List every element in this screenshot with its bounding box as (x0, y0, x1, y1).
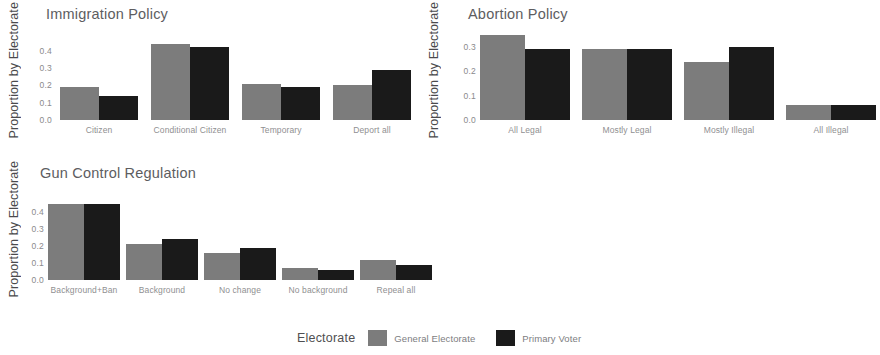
bar-primary-voter (281, 87, 320, 120)
y-axis-tick-label: 0.0 (464, 115, 480, 125)
bar-primary-voter (190, 47, 229, 120)
plot-area-gun-control: 0.00.10.20.30.4Background+BanBackgroundN… (48, 202, 440, 280)
bar-primary-voter (831, 105, 876, 120)
panel-immigration-policy: Proportion by Electorate Immigration Pol… (0, 0, 420, 150)
y-axis-tick-label: 0.1 (464, 91, 480, 101)
bar-general-electorate (204, 253, 240, 280)
bar-primary-voter (318, 270, 354, 280)
bar-primary-voter (525, 49, 570, 120)
y-axis-tick-label: 0.3 (40, 63, 56, 73)
bar-general-electorate (242, 84, 281, 120)
bar-primary-voter (99, 96, 138, 120)
plot-area-immigration: 0.00.10.20.30.4CitizenConditional Citize… (56, 42, 411, 120)
legend: Electorate General Electorate Primary Vo… (297, 330, 581, 346)
x-axis-tick-label: Deport all (353, 125, 390, 135)
y-axis-label-text: Proportion by Electorate (7, 2, 21, 139)
panel-title-immigration: Immigration Policy (46, 6, 168, 22)
x-axis-tick-label: All Legal (508, 125, 542, 135)
bar-group-container: Background+BanBackgroundNo changeNo back… (48, 202, 440, 280)
y-axis-tick-label: 0.4 (40, 46, 56, 56)
bar-group-container: CitizenConditional CitizenTemporaryDepor… (56, 42, 411, 120)
bar-general-electorate (126, 244, 162, 280)
y-axis-tick-label: 0.2 (40, 80, 56, 90)
x-axis-tick-label: Background (139, 285, 185, 295)
bar-general-electorate (151, 44, 190, 120)
gray-swatch-icon (368, 330, 387, 346)
legend-item-label: General Electorate (394, 333, 475, 344)
bar-general-electorate (282, 268, 318, 280)
bar-general-electorate (786, 105, 831, 120)
panel-title-abortion: Abortion Policy (468, 6, 568, 22)
x-axis-tick-label: Temporary (260, 125, 301, 135)
plot-area-abortion: 0.00.10.20.3All LegalMostly LegalMostly … (480, 30, 880, 120)
x-axis-tick-label: Conditional Citizen (154, 125, 227, 135)
bar-general-electorate (333, 85, 372, 120)
y-axis-tick-label: 0.0 (32, 275, 48, 285)
legend-item-label: Primary Voter (522, 333, 581, 344)
y-axis-tick-label: 0.0 (40, 115, 56, 125)
bar-primary-voter (627, 49, 672, 120)
legend-title: Electorate (297, 331, 355, 345)
x-axis-tick-label: Repeal all (377, 285, 416, 295)
y-axis-tick-label: 0.1 (40, 98, 56, 108)
panel-title-gun-control: Gun Control Regulation (40, 165, 196, 181)
bar-group-container: All LegalMostly LegalMostly IllegalAll I… (480, 30, 880, 120)
bar-general-electorate (684, 62, 729, 120)
bar-general-electorate (48, 204, 84, 280)
y-axis-label-text: Proportion by Electorate (7, 161, 21, 298)
y-axis-label-abortion: Proportion by Electorate (422, 0, 446, 140)
bar-primary-voter (240, 248, 276, 280)
bar-general-electorate (582, 49, 627, 120)
bar-primary-voter (84, 204, 120, 280)
y-axis-tick-label: 0.2 (464, 66, 480, 76)
bar-general-electorate (360, 260, 396, 280)
y-axis-label-immigration: Proportion by Electorate (2, 0, 26, 140)
y-axis-tick-label: 0.3 (32, 224, 48, 234)
x-axis-tick-label: Mostly Legal (603, 125, 652, 135)
bar-primary-voter (372, 70, 411, 120)
y-axis-tick-label: 0.4 (32, 207, 48, 217)
bar-primary-voter (729, 47, 774, 120)
black-swatch-icon (496, 330, 515, 346)
bar-general-electorate (480, 35, 525, 120)
x-axis-tick-label: All Illegal (813, 125, 848, 135)
bar-primary-voter (162, 239, 198, 280)
x-axis-tick-label: Mostly Illegal (704, 125, 755, 135)
panel-abortion-policy: Proportion by Electorate Abortion Policy… (420, 0, 835, 150)
bar-general-electorate (60, 87, 99, 120)
y-axis-tick-label: 0.3 (464, 42, 480, 52)
y-axis-label-gun-control: Proportion by Electorate (2, 158, 26, 300)
legend-item-primary-voter[interactable]: Primary Voter (496, 330, 581, 346)
panel-gun-control-regulation: Proportion by Electorate Gun Control Reg… (0, 158, 470, 308)
x-axis-tick-label: No background (289, 285, 348, 295)
bar-primary-voter (396, 265, 432, 280)
y-axis-tick-label: 0.2 (32, 241, 48, 251)
y-axis-tick-label: 0.1 (32, 258, 48, 268)
y-axis-label-text: Proportion by Electorate (427, 2, 441, 139)
x-axis-tick-label: Background+Ban (51, 285, 118, 295)
legend-item-general-electorate[interactable]: General Electorate (368, 330, 475, 346)
x-axis-tick-label: No change (219, 285, 261, 295)
x-axis-tick-label: Citizen (86, 125, 113, 135)
